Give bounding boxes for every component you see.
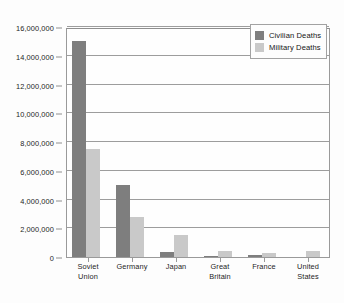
bar-military xyxy=(174,235,188,257)
y-axis-tick-mark xyxy=(56,171,62,172)
y-axis-tick-mark xyxy=(56,56,62,57)
x-axis-label-line: Great xyxy=(198,262,242,272)
bar-military xyxy=(86,149,100,257)
y-axis-tick-mark xyxy=(56,143,62,144)
y-axis-tick-mark xyxy=(56,229,62,230)
y-axis-tick-label: 0 xyxy=(50,254,54,263)
bar-group xyxy=(155,29,199,257)
bar-group xyxy=(111,29,155,257)
bar-group xyxy=(287,29,331,257)
y-axis-tick-label: 12,000,000 xyxy=(16,81,54,90)
bar-chart: 02,000,0004,000,0006,000,0008,000,00010,… xyxy=(0,0,344,303)
x-axis-tick-label: GreatBritain xyxy=(198,262,242,281)
y-axis-tick-mark xyxy=(56,258,62,259)
y-axis-tick-label: 6,000,000 xyxy=(20,167,54,176)
legend-swatch-military xyxy=(255,43,264,52)
y-axis-tick-mark xyxy=(56,114,62,115)
x-axis-label-line: Soviet xyxy=(66,262,110,272)
bar-civilian xyxy=(160,252,174,257)
legend-swatch-civilian xyxy=(255,31,264,40)
x-axis-tick-label: SovietUnion xyxy=(66,262,110,281)
x-axis-tick-label: Germany xyxy=(110,262,154,272)
x-axis-label-line: United xyxy=(286,262,330,272)
x-axis-label-line: Britain xyxy=(198,272,242,282)
bar-civilian xyxy=(72,41,86,257)
legend-item: Military Deaths xyxy=(255,42,321,53)
bar-military xyxy=(218,251,232,257)
y-axis-tick-mark xyxy=(56,85,62,86)
y-axis-tick-label: 8,000,000 xyxy=(20,139,54,148)
x-axis-label-line: States xyxy=(286,272,330,282)
y-axis-tick-label: 16,000,000 xyxy=(16,24,54,33)
bar-group xyxy=(199,29,243,257)
plot-area xyxy=(66,28,330,258)
y-axis-tick-label: 14,000,000 xyxy=(16,52,54,61)
x-axis: SovietUnionGermanyJapanGreatBritainFranc… xyxy=(66,260,330,302)
legend-label: Military Deaths xyxy=(269,43,321,52)
chart-legend: Civilian DeathsMilitary Deaths xyxy=(250,24,327,59)
legend-label: Civilian Deaths xyxy=(269,31,321,40)
y-axis-tick-label: 10,000,000 xyxy=(16,110,54,119)
y-axis-tick-label: 4,000,000 xyxy=(20,196,54,205)
bar-civilian xyxy=(248,255,262,257)
bar-military xyxy=(306,251,320,257)
x-axis-tick-label: Japan xyxy=(154,262,198,272)
bar-civilian xyxy=(204,256,218,257)
x-axis-label-line: Germany xyxy=(110,262,154,272)
x-axis-label-line: Japan xyxy=(154,262,198,272)
bar-civilian xyxy=(116,185,130,257)
x-axis-label-line: France xyxy=(242,262,286,272)
x-axis-label-line: Union xyxy=(66,272,110,282)
bars-layer xyxy=(67,29,329,257)
x-axis-tick-label: UnitedStates xyxy=(286,262,330,281)
y-axis: 02,000,0004,000,0006,000,0008,000,00010,… xyxy=(0,28,62,258)
bar-group xyxy=(243,29,287,257)
y-axis-tick-mark xyxy=(56,200,62,201)
y-axis-tick-label: 2,000,000 xyxy=(20,225,54,234)
bar-group xyxy=(67,29,111,257)
legend-item: Civilian Deaths xyxy=(255,30,321,41)
x-axis-tick-label: France xyxy=(242,262,286,272)
bar-military xyxy=(262,253,276,257)
y-axis-tick-mark xyxy=(56,28,62,29)
bar-military xyxy=(130,217,144,257)
